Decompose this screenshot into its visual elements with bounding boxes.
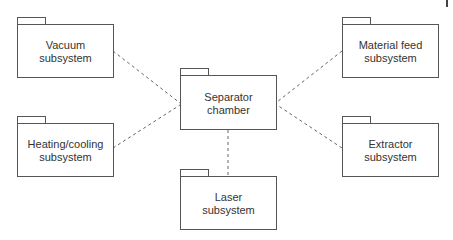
link-vacuum-separator <box>113 51 180 103</box>
package-tab <box>342 116 371 123</box>
link-material-feed-separator <box>277 51 342 102</box>
package-label: Laser subsystem <box>202 189 255 217</box>
package-tab <box>180 169 209 176</box>
package-tab <box>17 116 46 123</box>
package-body: Material feed subsystem <box>342 24 439 78</box>
package-tab <box>17 17 46 24</box>
package-body: Extractor subsystem <box>342 123 439 177</box>
package-tab <box>342 17 371 24</box>
link-extractor-separator <box>277 105 342 148</box>
package-body: Separator chamber <box>180 75 277 130</box>
link-heating-separator <box>113 105 180 148</box>
package-label: Extractor subsystem <box>364 136 417 164</box>
package-label: Material feed subsystem <box>359 37 423 65</box>
package-tab <box>180 68 209 75</box>
package-label: Separator chamber <box>204 89 252 117</box>
package-label: Heating/cooling subsystem <box>28 136 104 164</box>
package-body: Vacuum subsystem <box>17 24 114 78</box>
package-body: Heating/cooling subsystem <box>17 123 114 177</box>
package-body: Laser subsystem <box>180 176 277 230</box>
package-label: Vacuum subsystem <box>39 37 92 65</box>
page-edge-mark <box>446 0 448 7</box>
package-diagram: Vacuum subsystem Heating/cooling subsyst… <box>0 0 453 240</box>
